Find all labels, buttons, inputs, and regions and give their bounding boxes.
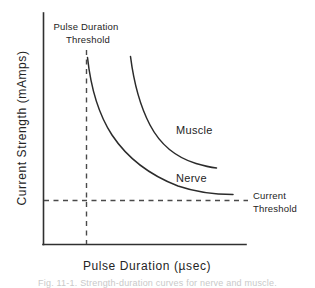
pulse-duration-threshold-label-line1: Pulse Duration <box>53 21 118 32</box>
x-axis-title: Pulse Duration (µsec) <box>83 259 211 273</box>
pulse-duration-threshold-label-line2: Threshold <box>66 34 110 45</box>
muscle-curve-label: Muscle <box>176 124 213 136</box>
y-axis-title: Current Strength (mAmps) <box>15 50 29 205</box>
strength-duration-chart: Muscle Nerve Pulse Duration Threshold Cu… <box>0 0 315 288</box>
nerve-curve-label: Nerve <box>176 172 207 184</box>
muscle-curve <box>131 57 217 169</box>
figure-container: Muscle Nerve Pulse Duration Threshold Cu… <box>0 0 315 288</box>
current-threshold-label-line1: Current <box>253 190 286 201</box>
current-threshold-label-line2: Threshold <box>253 203 297 214</box>
page-caption-fragment: Fig. 11-1. Strength-duration curves for … <box>0 278 315 288</box>
